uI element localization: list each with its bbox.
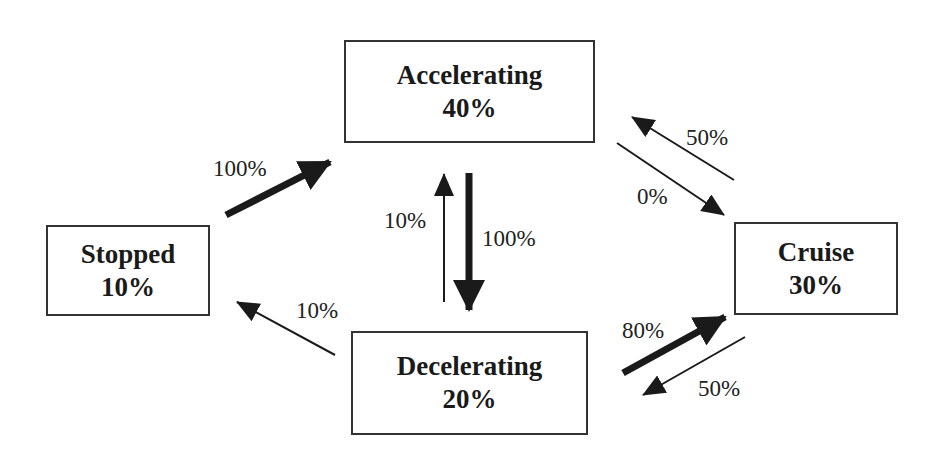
edge-label-accelerating-to-cruise: 0% [637, 185, 668, 208]
node-cruise-share: 30% [789, 269, 843, 302]
node-accelerating: Accelerating 40% [344, 40, 595, 143]
node-accelerating-share: 40% [443, 92, 497, 125]
node-cruise: Cruise 30% [734, 222, 898, 315]
node-stopped: Stopped 10% [46, 225, 210, 316]
edge-label-cruise-to-accelerating: 50% [686, 126, 728, 149]
edge-label-decelerating-to-stopped: 10% [296, 299, 338, 322]
edge-label-decelerating-to-accelerating: 10% [384, 209, 426, 232]
edge-label-accelerating-to-decelerating: 100% [482, 227, 536, 250]
edge-label-decelerating-to-cruise: 80% [622, 319, 664, 342]
node-cruise-name: Cruise [778, 236, 855, 269]
node-decelerating-share: 20% [443, 383, 497, 416]
node-decelerating: Decelerating 20% [351, 331, 588, 435]
node-stopped-share: 10% [101, 271, 155, 304]
node-stopped-name: Stopped [81, 238, 176, 271]
edge-label-cruise-to-decelerating: 50% [698, 377, 740, 400]
edge-accelerating-to-cruise [617, 143, 724, 215]
node-accelerating-name: Accelerating [397, 59, 542, 92]
edge-label-stopped-to-accelerating: 100% [213, 157, 267, 180]
node-decelerating-name: Decelerating [397, 350, 542, 383]
